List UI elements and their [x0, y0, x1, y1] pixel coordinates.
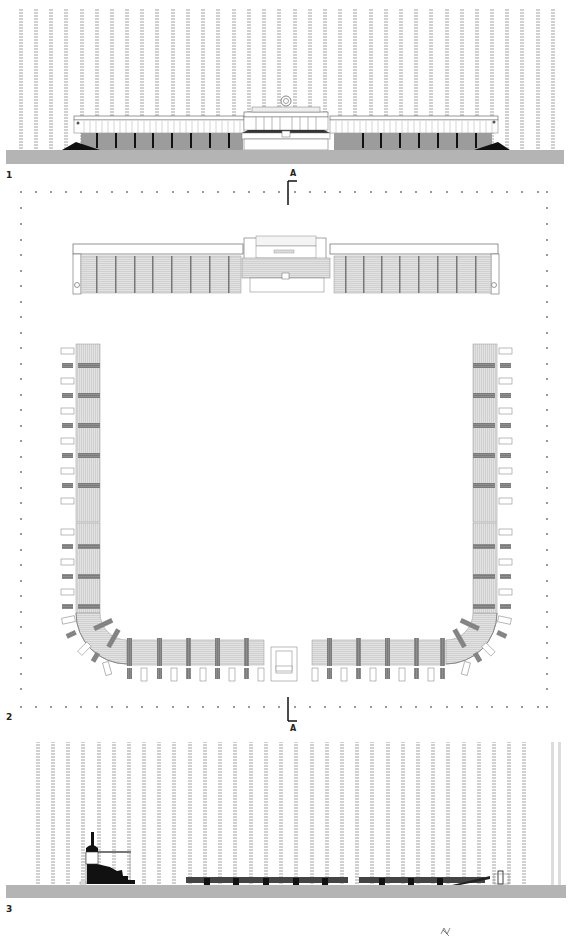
- ground-band: [6, 150, 564, 164]
- left-stand-lower-curve: [61, 523, 264, 681]
- panel-label-plan: 2: [6, 712, 12, 722]
- section-marker-top: [288, 181, 297, 205]
- north-arrow-icon: [441, 928, 450, 936]
- section-marker-bottom-label: A: [290, 724, 296, 733]
- panel-label-elevation: 1: [6, 170, 12, 180]
- plan-panel: [20, 191, 548, 708]
- grandstand-section-cut: [80, 832, 135, 884]
- section-marker-top-label: A: [290, 169, 296, 178]
- grandstand-elevation: [62, 96, 510, 150]
- left-stand-upper: [61, 344, 100, 522]
- tree-columns-section: [36, 742, 561, 885]
- elevation-panel: [6, 8, 564, 164]
- right-stand-lower-curve: [312, 523, 512, 681]
- section-panel: [6, 742, 566, 898]
- architectural-drawing: [0, 0, 569, 937]
- south-entrance: [271, 647, 297, 681]
- panel-label-section: 3: [6, 904, 12, 914]
- main-grandstand-plan: [73, 236, 499, 294]
- section-marker-bottom: [288, 697, 297, 721]
- right-stand-upper: [473, 344, 512, 522]
- ground-band-section: [6, 885, 566, 898]
